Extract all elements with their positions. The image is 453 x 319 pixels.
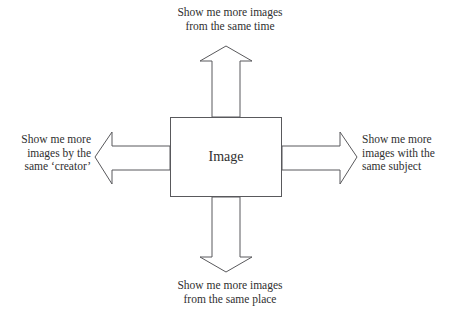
arrow-down[interactable] [200,197,252,272]
arrow-left[interactable] [95,132,170,184]
arrow-up[interactable] [200,46,252,117]
label-same-creator: Show me more images by the same ‘creator… [2,133,91,174]
center-image-label: Image [170,117,282,197]
arrow-right[interactable] [282,132,357,184]
label-same-time: Show me more images from the same time [133,6,327,33]
label-same-subject: Show me more images with the same subjec… [362,133,453,174]
diagram-canvas: Image Show me more images from the same … [0,0,453,319]
label-same-place: Show me more images from the same place [133,279,327,306]
